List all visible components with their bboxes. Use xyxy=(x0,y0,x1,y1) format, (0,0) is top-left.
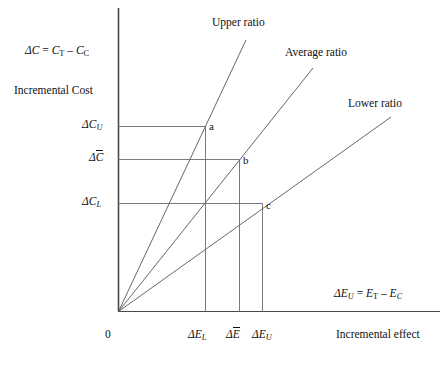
ray-label-upper-ratio: Upper ratio xyxy=(212,16,265,29)
ray-label-average-ratio: Average ratio xyxy=(285,46,347,59)
x-tick-label-deu: ΔEU xyxy=(252,328,272,342)
y-tick-label-dcl: ΔCL xyxy=(82,195,101,209)
x-axis-title-text: Incremental effect xyxy=(336,328,420,341)
y-tick-label-dcbar: ΔC xyxy=(89,151,103,164)
x-tick-label-del: ΔEL xyxy=(188,328,206,342)
y-tick-label-dcu: ΔCU xyxy=(82,118,102,132)
lower-ratio-ray xyxy=(119,117,392,312)
y-axis-title-text: Incremental Cost xyxy=(14,84,93,97)
incremental-cost-effect-figure: ΔC = CT – CC Incremental Cost ΔCU ΔC ΔCL… xyxy=(0,0,447,365)
point-label-b: b xyxy=(243,154,249,166)
origin-label: 0 xyxy=(105,328,111,341)
x-tick-label-debar: ΔE xyxy=(226,328,240,341)
x-axis-title-equation: ΔEU = ET – EC xyxy=(334,287,402,301)
y-axis-title-equation: ΔC = CT – CC xyxy=(25,44,89,58)
point-label-c: c xyxy=(266,199,271,211)
point-label-a: a xyxy=(209,120,214,132)
ray-label-lower-ratio: Lower ratio xyxy=(348,97,402,110)
